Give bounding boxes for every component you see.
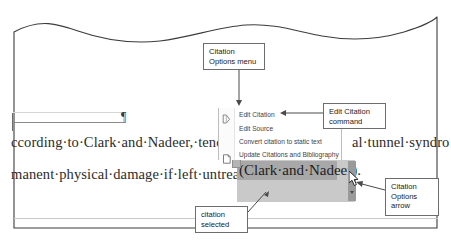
citation-field-text: (Clark·and·Nadeer).: [239, 162, 361, 179]
menu-item-convert-citation-label: Convert citation to static text: [239, 137, 322, 147]
empty-paragraph-rule: [13, 122, 126, 123]
callout-citation-options-arrow: Citation Options arrow: [385, 178, 439, 216]
callout-edit-citation-command-text: Edit Citation command: [329, 107, 380, 126]
callout-citation-selected: citation selected: [195, 206, 248, 233]
screenshot-stage: ¶ ccording·to·Clark·and·Nadeer,·tendoni …: [0, 0, 451, 249]
callout-citation-options-menu-text: Citation Options menu: [209, 47, 259, 66]
callout-citation-selected-text: citation selected: [201, 210, 242, 229]
mouse-cursor: [349, 171, 362, 192]
menu-item-edit-citation-label: Edit Citation: [239, 110, 275, 120]
text-cursor: [12, 113, 13, 131]
document-text-line-1-left: ccording·to·Clark·and·Nadeer,·tendoni: [11, 134, 242, 151]
callout-citation-options-menu: Citation Options menu: [203, 43, 265, 70]
document-text-line-2-left: manent·physical·damage·if·left·untreated…: [11, 166, 262, 183]
document-text-line-1-right: al·tunnel·syndro: [352, 134, 449, 151]
callout-edit-citation-command: Edit Citation command: [323, 103, 386, 129]
callout-citation-options-arrow-text: Citation Options arrow: [391, 182, 433, 211]
menu-item-edit-source-label: Edit Source: [239, 124, 273, 134]
menu-item-update-citations-label: Update Citations and Bibliography: [239, 150, 339, 160]
document-refresh-icon: [222, 150, 232, 160]
pilcrow-mark: ¶: [121, 110, 126, 122]
empty-paragraph-rule-top: [13, 112, 126, 113]
menu-item-update-citations-and-bibliography[interactable]: Update Citations and Bibliography: [219, 150, 341, 163]
pencil-edit-icon: [222, 110, 232, 120]
menu-item-convert-citation-to-static-text[interactable]: Convert citation to static text: [219, 137, 341, 150]
